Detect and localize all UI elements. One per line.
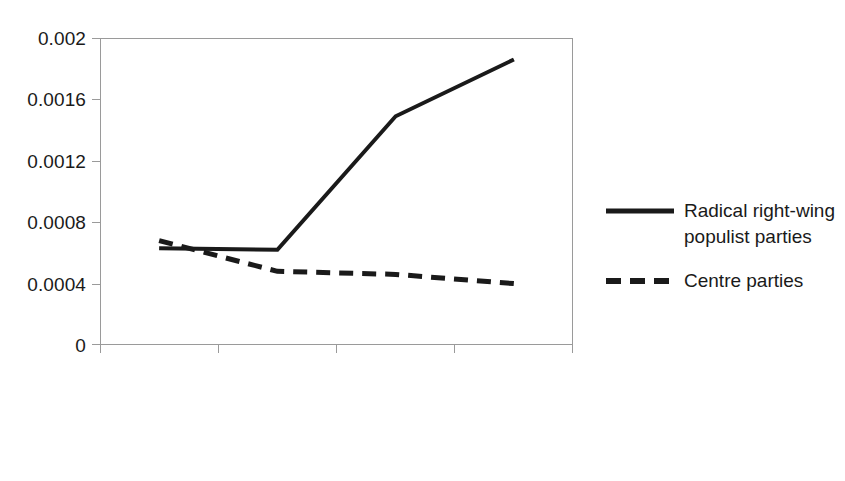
x-axis-label-group: 1995–1999 2000–2004 2005–2009 2010–lates… bbox=[100, 356, 573, 481]
x-tick-mark bbox=[336, 345, 337, 353]
y-tick-mark bbox=[92, 161, 100, 162]
legend-dashed-line-icon bbox=[606, 268, 674, 294]
legend-solid-line-icon bbox=[606, 198, 674, 224]
y-tick-label: 0.0016 bbox=[0, 90, 86, 109]
legend-label: Radical right-wing populist parties bbox=[684, 198, 839, 250]
plot-area bbox=[100, 38, 573, 345]
x-tick-mark bbox=[572, 345, 573, 353]
y-tick-mark bbox=[92, 222, 100, 223]
y-tick-label: 0.0008 bbox=[0, 213, 86, 232]
legend-entry-radical-right-wing-populist-parties: Radical right-wing populist parties bbox=[606, 198, 841, 250]
x-tick-mark bbox=[218, 345, 219, 353]
y-axis-tick-marks bbox=[92, 38, 100, 345]
y-tick-label: 0.0004 bbox=[0, 275, 86, 294]
chart-figure: 0.002 0.0016 0.0012 0.0008 0.0004 0 1995… bbox=[0, 0, 845, 481]
x-tick-mark bbox=[454, 345, 455, 353]
y-tick-mark bbox=[92, 99, 100, 100]
y-tick-label: 0.002 bbox=[0, 29, 86, 48]
chart-legend: Radical right-wing populist parties Cent… bbox=[606, 198, 841, 312]
y-tick-label: 0 bbox=[0, 336, 86, 355]
y-axis-label-group: 0.002 0.0016 0.0012 0.0008 0.0004 0 bbox=[0, 0, 86, 481]
legend-label: Centre parties bbox=[684, 268, 803, 294]
y-tick-mark bbox=[92, 38, 100, 39]
legend-entry-centre-parties: Centre parties bbox=[606, 268, 841, 294]
y-tick-mark bbox=[92, 284, 100, 285]
y-tick-label: 0.0012 bbox=[0, 152, 86, 171]
x-tick-mark bbox=[100, 345, 101, 353]
x-axis-tick-marks bbox=[100, 345, 573, 353]
y-tick-mark bbox=[92, 344, 100, 345]
series-line-radical-right-wing-populist-parties bbox=[159, 59, 514, 249]
